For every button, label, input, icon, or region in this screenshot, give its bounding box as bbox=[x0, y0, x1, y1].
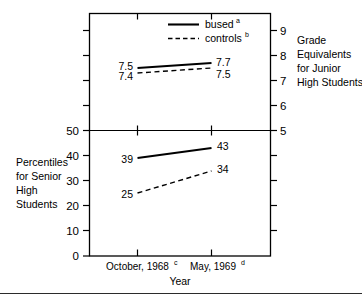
bottom-axis-ticks bbox=[138, 250, 212, 257]
label-pct-bused-end: 43 bbox=[217, 140, 229, 152]
right-tick-9: 9 bbox=[280, 25, 286, 37]
label-pct-bused-start: 39 bbox=[121, 153, 133, 165]
x-axis-labels: October, 1968 c May, 1969 d bbox=[106, 259, 245, 272]
series-percentile-bused bbox=[138, 148, 212, 158]
right-tick-6: 6 bbox=[280, 100, 286, 112]
series-grade-bused bbox=[138, 63, 212, 68]
chart-figure: 9 8 7 6 5 Grade Equivalents for Junior H… bbox=[0, 0, 362, 300]
left-tick-40: 40 bbox=[66, 150, 79, 162]
right-axis-title-line-4: High Students bbox=[297, 76, 362, 88]
right-axis-title: Grade Equivalents for Junior High Studen… bbox=[297, 34, 362, 88]
legend-superscript-bused: a bbox=[236, 17, 240, 24]
percentile-point-labels: 39 25 43 34 bbox=[121, 140, 229, 200]
legend-label-controls: controls bbox=[205, 32, 242, 44]
left-axis-title: Percentiles for Senior High Students bbox=[16, 156, 68, 210]
left-axis-tick-labels: 50 40 30 20 10 0 bbox=[66, 125, 79, 263]
label-pct-controls-start: 25 bbox=[121, 188, 133, 200]
left-tick-10: 10 bbox=[66, 225, 79, 237]
left-tick-30: 30 bbox=[66, 175, 79, 187]
right-tick-8: 8 bbox=[280, 50, 286, 62]
x-label-may-1969-superscript: d bbox=[241, 259, 245, 266]
plot-frame bbox=[90, 14, 271, 257]
right-tick-5: 5 bbox=[280, 125, 286, 137]
right-axis-title-line-3: for Junior bbox=[297, 62, 341, 74]
x-label-may-1969: May, 1969 bbox=[190, 261, 236, 272]
right-axis-title-line-2: Equivalents bbox=[297, 48, 351, 60]
top-axis-ticks bbox=[138, 14, 212, 20]
label-ge-controls-start: 7.4 bbox=[118, 70, 133, 82]
right-axis-tick-labels: 9 8 7 6 5 bbox=[280, 25, 286, 137]
left-axis-title-line-3: High bbox=[16, 184, 38, 196]
chart-svg: 9 8 7 6 5 Grade Equivalents for Junior H… bbox=[0, 0, 362, 300]
left-axis-ticks bbox=[83, 31, 90, 257]
chart-legend: bused a controls b bbox=[168, 17, 249, 44]
x-label-october-1968: October, 1968 bbox=[106, 261, 169, 272]
grade-point-labels: 7.5 7.4 7.7 7.5 bbox=[118, 56, 230, 82]
legend-superscript-controls: b bbox=[245, 31, 249, 38]
x-axis-title: Year bbox=[169, 275, 191, 287]
left-tick-0: 0 bbox=[73, 250, 79, 262]
series-percentile-controls bbox=[138, 171, 212, 193]
label-pct-controls-end: 34 bbox=[217, 163, 229, 175]
right-axis-ticks bbox=[271, 31, 278, 231]
right-tick-7: 7 bbox=[280, 75, 286, 87]
legend-label-bused: bused bbox=[205, 18, 234, 30]
left-axis-title-line-1: Percentiles bbox=[16, 156, 68, 168]
label-ge-bused-end: 7.7 bbox=[216, 56, 231, 68]
series-grade-controls bbox=[138, 68, 212, 73]
x-label-october-1968-superscript: c bbox=[174, 259, 178, 266]
left-tick-20: 20 bbox=[66, 200, 79, 212]
left-axis-title-line-4: Students bbox=[16, 198, 57, 210]
right-axis-title-line-1: Grade bbox=[297, 34, 326, 46]
left-tick-50: 50 bbox=[66, 125, 79, 137]
label-ge-controls-end: 7.5 bbox=[216, 68, 231, 80]
left-axis-title-line-2: for Senior bbox=[16, 170, 62, 182]
